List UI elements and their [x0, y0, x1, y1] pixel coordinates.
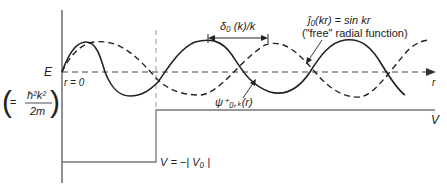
psi-label: ψ⁺₀,ₖ(r) — [215, 96, 253, 108]
energy-def-close-paren: ) — [50, 85, 60, 118]
energy-label: E — [44, 65, 53, 79]
potential-well — [62, 110, 435, 162]
energy-def-den: 2m — [29, 105, 45, 117]
free-radial-function-curve — [62, 40, 430, 97]
free-function-pointer-arrow-icon — [306, 57, 312, 64]
well-depth-label: V = −| V₀ | — [160, 156, 210, 168]
scattering-wavefunction-curve — [62, 40, 405, 96]
phase-shift-diagram: E r = 0 ( = ħ²k² 2m ) δ₀ (k)/k ĵ₀(kr) = … — [0, 0, 447, 193]
phase-shift-arrow-right-icon — [261, 35, 268, 41]
energy-def-eq: = — [10, 96, 16, 108]
phase-shift-label: δ₀ (k)/k — [220, 20, 256, 32]
free-function-label: ĵ₀(kr) = sin kr — [306, 14, 372, 26]
free-function-desc: ("free" radial function) — [302, 27, 408, 39]
r-axis-label: r — [432, 77, 436, 88]
r-axis-arrow-icon — [426, 68, 436, 76]
potential-axis-label: V — [431, 113, 440, 127]
r-origin-label: r = 0 — [64, 77, 85, 88]
energy-def-num: ħ²k² — [27, 89, 46, 101]
